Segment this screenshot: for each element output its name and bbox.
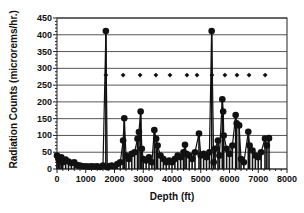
data-point	[149, 159, 156, 166]
data-point	[192, 149, 199, 156]
diamond-marker	[235, 73, 240, 78]
diamond-marker	[247, 73, 252, 78]
data-point	[210, 159, 217, 166]
data-point	[220, 132, 227, 139]
x-tick-label: 3000	[133, 174, 153, 184]
data-point	[154, 142, 161, 149]
y-tick-label: 50	[42, 147, 52, 157]
x-tick-label: 4000	[162, 174, 182, 184]
data-point	[258, 149, 265, 156]
x-tick-label: 7000	[248, 174, 268, 184]
data-point	[226, 151, 233, 158]
diamond-marker	[185, 73, 190, 78]
y-tick-label: 0	[47, 164, 52, 174]
y-axis-label: Radiation Counts (microrems/hr.)	[8, 19, 19, 169]
data-point	[266, 135, 273, 142]
x-tick-label: 2000	[104, 174, 124, 184]
diamond-marker	[168, 73, 173, 78]
data-point	[121, 115, 128, 122]
data-point	[182, 142, 189, 149]
y-tick-label: 200	[37, 97, 52, 107]
plot-area: 0501001502002503003504004500100020003000…	[0, 0, 304, 213]
x-tick-label: 8000	[277, 174, 297, 184]
y-tick-label: 250	[37, 80, 52, 90]
data-point	[236, 122, 243, 129]
radiation-chart: 0501001502002503003504004500100020003000…	[0, 0, 304, 213]
data-point	[120, 137, 127, 144]
data-point	[229, 142, 236, 149]
data-point	[232, 112, 239, 119]
data-point	[131, 149, 138, 156]
x-tick-label: 1000	[76, 174, 96, 184]
data-point	[139, 146, 146, 153]
diamond-marker	[121, 73, 126, 78]
data-point	[208, 28, 215, 35]
data-point	[245, 128, 252, 135]
data-point	[220, 108, 227, 115]
data-point	[103, 28, 110, 35]
x-tick-label: 5000	[191, 174, 211, 184]
y-tick-label: 150	[37, 114, 52, 124]
data-point	[117, 159, 124, 166]
diamond-marker	[154, 73, 159, 78]
y-tick-label: 400	[37, 30, 52, 40]
data-point	[212, 146, 219, 153]
diamond-marker	[223, 73, 228, 78]
data-point	[264, 142, 271, 149]
data-point	[215, 137, 222, 144]
diamond-marker	[103, 73, 108, 78]
diamond-marker	[138, 73, 143, 78]
data-point	[241, 159, 248, 166]
data-point	[206, 149, 213, 156]
data-point	[136, 129, 143, 136]
data-point	[153, 136, 160, 143]
data-point	[134, 136, 141, 143]
diamond-marker	[263, 73, 268, 78]
y-tick-label: 350	[37, 47, 52, 57]
data-point	[137, 108, 144, 115]
data-point	[219, 96, 226, 103]
data-point	[151, 127, 158, 134]
data-point	[189, 156, 196, 163]
y-tick-label: 300	[37, 63, 52, 73]
data-point	[196, 130, 203, 137]
x-tick-label: 0	[54, 174, 59, 184]
diamond-marker	[195, 73, 200, 78]
y-tick-label: 450	[37, 13, 52, 23]
data-point	[216, 152, 223, 159]
x-axis-label: Depth (ft)	[57, 191, 287, 202]
y-tick-label: 100	[37, 130, 52, 140]
x-tick-label: 6000	[219, 174, 239, 184]
